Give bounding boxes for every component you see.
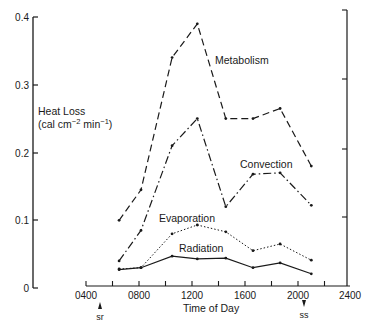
data-point [279,262,282,265]
heat-loss-chart: 0 0.1 0.2 0.3 0.4 Heat Loss (cal cm−2 mi… [0,0,367,325]
y-tick-label: 0.1 [15,215,29,226]
x-tick-label: 2400 [339,290,362,301]
data-point [171,232,174,235]
data-point [224,230,227,233]
series-label-radiation: Radiation [179,242,224,254]
data-point [196,258,199,261]
data-point [252,117,255,120]
data-point [310,165,313,168]
data-point [252,173,255,176]
data-point [140,266,143,269]
x-tick-label: 1600 [234,290,257,301]
x-tick-label: 0400 [75,290,98,301]
y-tick-label: 0.4 [15,12,29,23]
data-point [171,255,174,258]
data-point [196,22,199,25]
data-point [140,229,143,232]
y-tick-label: 0.2 [15,148,29,159]
x-tick-label: 0800 [128,290,151,301]
x-axis-label: Time of Day [183,302,240,314]
x-axis: 0400 0800 1200 1600 2000 2400 Time of Da… [75,281,362,322]
data-point [224,257,227,260]
series-line-radiation [119,256,311,274]
data-point [118,268,121,271]
data-point [252,249,255,252]
sunset-marker-icon [302,300,306,307]
series-line-convection [119,119,311,261]
data-point [279,243,282,246]
data-point [224,205,227,208]
x-tick-label: 1200 [181,290,204,301]
series-label-convection: Convection [240,158,293,170]
data-point [310,259,313,262]
right-axis [342,10,347,286]
data-point [171,56,174,59]
y-axis: 0 0.1 0.2 0.3 0.4 Heat Loss (cal cm−2 mi… [15,12,112,294]
sunset-label: ss [300,310,310,320]
data-point [196,117,199,120]
data-point [118,219,121,222]
data-point [118,260,121,263]
data-point [310,272,313,275]
sunrise-label: sr [96,312,104,322]
x-tick-label: 2000 [287,290,310,301]
y-tick-label: 0.3 [15,80,29,91]
y-axis-label-line2: (cal cm−2 min−1) [38,117,112,130]
y-tick-label: 0 [23,283,29,294]
data-point [310,204,313,207]
data-point [252,266,255,269]
data-point [196,224,199,227]
data-point [224,117,227,120]
data-point [279,107,282,110]
sunrise-marker-icon [98,302,102,309]
y-axis-label-line1: Heat Loss [38,105,85,117]
series-label-evaporation: Evaporation [159,212,215,224]
data-point [171,144,174,147]
data-point [140,188,143,191]
data-point [279,171,282,174]
series-label-metabolism: Metabolism [215,54,269,66]
